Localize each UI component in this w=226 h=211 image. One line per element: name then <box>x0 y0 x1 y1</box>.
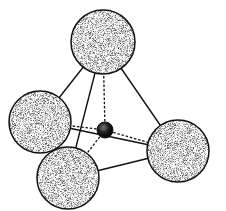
tetrahedral-molecule-diagram <box>0 0 226 211</box>
atom-left <box>9 91 71 153</box>
center-atom <box>97 122 113 138</box>
atom-right <box>147 120 209 182</box>
outer-atoms <box>9 10 209 209</box>
atom-top <box>71 10 135 74</box>
atom-bottom <box>37 147 99 209</box>
center-atom-sphere <box>97 122 113 138</box>
